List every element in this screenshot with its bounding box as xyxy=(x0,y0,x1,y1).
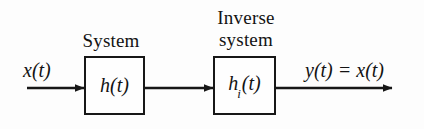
symbol-base: h xyxy=(100,74,110,96)
symbol-arg: (t) xyxy=(242,72,261,94)
symbol-arg: (t) xyxy=(110,74,129,96)
inverse-system-block[interactable]: hi(t) xyxy=(213,56,276,115)
inverse-system-caption-line2: system xyxy=(206,30,286,49)
symbol-subscript: i xyxy=(237,86,241,101)
output-signal-label: y(t) = x(t) xyxy=(305,60,384,80)
inverse-impulse-response-symbol: hi(t) xyxy=(228,72,261,99)
system-impulse-response-symbol: h(t) xyxy=(100,74,129,97)
inverse-system-caption-line1: Inverse xyxy=(206,8,286,27)
system-block[interactable]: h(t) xyxy=(84,56,145,115)
input-signal-label: x(t) xyxy=(23,60,51,80)
system-block-caption: System xyxy=(76,31,146,50)
block-diagram-figure: System Inverse system x(t) y(t) = x(t) h… xyxy=(0,0,424,129)
